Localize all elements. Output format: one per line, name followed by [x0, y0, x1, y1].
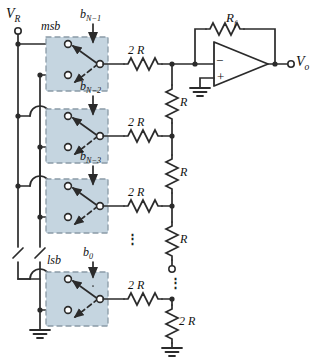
- ladder-r-label-2: R: [180, 165, 187, 180]
- ground-symbol-left: [30, 330, 50, 338]
- ladder-open-terminal: [169, 266, 175, 272]
- feedback-rf-label: Rf: [226, 10, 236, 28]
- vr-terminal: [15, 28, 21, 34]
- ladder-node-4: [169, 296, 174, 301]
- junction-vr-1: [15, 41, 20, 46]
- switch-terminal-gnd-msb: [65, 72, 72, 79]
- junction-gnd-2: [37, 144, 42, 149]
- opamp-ninv-wire: [200, 78, 214, 88]
- resistor-r-1: [166, 85, 178, 123]
- junction-gnd-4: [37, 307, 42, 312]
- resistor-2r-lsb: [124, 293, 162, 305]
- terminating-2r-label: 2 R: [179, 314, 195, 329]
- junction-vr-3: [15, 183, 20, 188]
- rail-break-gnd: [35, 248, 45, 258]
- msb-label: msb: [41, 19, 60, 34]
- switch-terminal-gnd-n3: [65, 214, 72, 221]
- switch-terminal-vr-n3: [65, 183, 72, 190]
- switch-terminal-vr-n2: [65, 113, 72, 120]
- ladder-r-label-1: R: [180, 95, 187, 110]
- series-2r-label-msb: 2 R: [128, 43, 144, 58]
- switch-terminal-gnd-lsb: [65, 307, 72, 314]
- bit-label-lsb: b0: [83, 245, 93, 261]
- ladder-node-2: [169, 133, 174, 138]
- series-2r-label-n3: 2 R: [128, 185, 144, 200]
- ground-symbol-ladder: [162, 348, 182, 356]
- lsb-label: lsb: [47, 253, 61, 268]
- resistor-rf: [206, 23, 244, 35]
- vr-label: VR: [6, 6, 20, 24]
- ground-symbol-opamp: [190, 88, 210, 96]
- rail-break-vr: [13, 248, 23, 258]
- resistor-2r-msb: [124, 58, 162, 70]
- resistor-r-2: [166, 155, 178, 193]
- ladder-column-ellipsis: ⋮: [169, 278, 182, 287]
- resistor-2r-n3: [124, 200, 162, 212]
- ladder-r-label-3: R: [180, 232, 187, 247]
- feedback-left-wire: [195, 29, 206, 64]
- resistor-2r-terminating: [166, 305, 178, 343]
- resistor-2r-n2: [124, 130, 162, 142]
- vo-label: Vo: [296, 54, 309, 72]
- ladder-node-3: [169, 203, 174, 208]
- switch-terminal-vr-lsb: [65, 276, 72, 283]
- vo-terminal: [288, 61, 294, 67]
- series-2r-label-n2: 2 R: [128, 115, 144, 130]
- series-2r-label-lsb: 2 R: [128, 278, 144, 293]
- switch-column-ellipsis: ⋮: [126, 234, 139, 243]
- opamp-noninverting-label: +: [217, 69, 224, 85]
- vr-rail-lower: [18, 262, 40, 279]
- resistor-r-3: [166, 222, 178, 260]
- switch-terminal-gnd-n2: [65, 144, 72, 151]
- bit-label-msb: bN−1: [80, 7, 101, 23]
- r2r-dac-schematic: VR Vo msb lsb bN−1 bN−2 bN−3 b0 2 R 2 R …: [0, 0, 319, 359]
- bit-label-n2: bN−2: [80, 79, 101, 95]
- opamp-inverting-label: −: [216, 53, 223, 69]
- bit-label-n3: bN−3: [80, 149, 101, 165]
- schematic-canvas: [0, 0, 319, 359]
- switch-terminal-vr-msb: [65, 41, 72, 48]
- junction-vr-2: [15, 113, 20, 118]
